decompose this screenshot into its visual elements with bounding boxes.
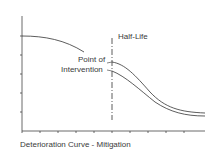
poi-leader-2 — [107, 70, 112, 71]
half-life-label: Half-Life — [118, 32, 148, 41]
point-of-label: Point of — [78, 55, 105, 64]
upper-mitigated-curve — [112, 62, 205, 113]
poi-leader-1 — [107, 62, 112, 63]
lower-mitigated-curve — [112, 71, 205, 116]
intervention-label: Intervention — [61, 65, 103, 74]
deterioration-curve — [22, 36, 84, 52]
chart-title: Deterioration Curve - Mitigation — [20, 140, 131, 149]
deterioration-chart — [0, 0, 215, 158]
